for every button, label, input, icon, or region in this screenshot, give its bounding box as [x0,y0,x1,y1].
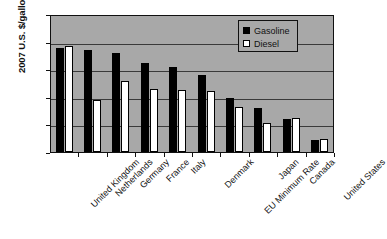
y-tick-mark [46,70,50,71]
bar-gasoline [141,63,149,152]
x-tick-mark [78,153,79,157]
bar-gasoline [311,140,319,152]
bar-gasoline [198,75,206,152]
bar-diesel [207,91,215,152]
bar-gasoline [84,50,92,152]
bar-gasoline [254,108,262,152]
legend-item-gasoline: Gasoline [243,24,297,37]
legend: Gasoline Diesel [238,20,298,52]
bar-diesel [65,46,73,152]
bar-gasoline [283,119,291,152]
bar-diesel [150,89,158,152]
x-tick-mark [107,153,108,157]
x-tick-label: United States [342,157,387,202]
bar-group [169,16,188,152]
bar-group [84,16,103,152]
bar-diesel [320,139,328,152]
bar-diesel [263,123,271,152]
bar-gasoline [56,48,64,152]
legend-swatch-diesel-icon [243,40,250,47]
bar-diesel [178,90,186,152]
y-tick-mark [46,15,50,16]
x-tick-mark [135,153,136,157]
bar-diesel [292,118,300,152]
bar-group [56,16,75,152]
bar-group [141,16,160,152]
x-tick-mark [334,153,335,157]
legend-label-gasoline: Gasoline [254,26,290,36]
y-tick-mark [46,98,50,99]
legend-swatch-gasoline-icon [243,27,250,34]
bar-diesel [235,107,243,152]
y-tick-mark [46,43,50,44]
x-tick-label: Italy [189,157,208,176]
bar-group [112,16,131,152]
legend-label-diesel: Diesel [254,39,279,49]
bar-gasoline [112,53,120,152]
bar-diesel [121,81,129,152]
bar-gasoline [169,67,177,152]
x-tick-mark [306,153,307,157]
x-tick-mark [192,153,193,157]
bar-group [311,16,330,152]
y-tick-mark [46,153,50,154]
y-tick-mark [46,125,50,126]
x-tick-mark [220,153,221,157]
x-tick-mark [277,153,278,157]
bar-diesel [93,100,101,152]
legend-item-diesel: Diesel [243,37,297,50]
bar-gasoline [226,98,234,152]
x-tick-label: Denmark [223,157,256,190]
bar-group [198,16,217,152]
y-axis-title: 2007 U.S. $/gallon [16,0,27,99]
